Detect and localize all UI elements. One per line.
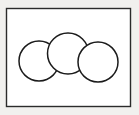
circle-right <box>78 42 118 82</box>
diagram-canvas <box>0 0 139 115</box>
diagram-root: Three Overlapping Circles venn-three-cir… <box>0 0 139 115</box>
